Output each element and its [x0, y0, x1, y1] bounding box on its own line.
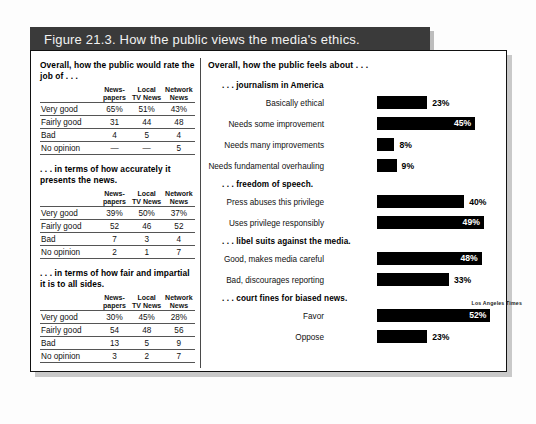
table-cell: 2	[98, 246, 130, 259]
table-cell: 4	[163, 233, 195, 246]
table-cell: 43%	[163, 103, 195, 116]
table-cell: 39%	[98, 207, 130, 220]
bar-row: Needs some improvement45%	[208, 117, 500, 133]
bar-track: 23%	[377, 96, 427, 109]
column-header	[40, 294, 98, 311]
table-row: Fairly good314448	[40, 116, 195, 129]
bar-row: Needs fundamental overhauling9%	[208, 159, 500, 175]
table-header-row: News- papersLocal TV NewsNetwork News	[40, 190, 195, 207]
table-cell: 7	[163, 350, 195, 363]
table-cell: 52	[163, 220, 195, 233]
table-cell: 56	[163, 324, 195, 337]
table-cell: 3	[98, 350, 130, 363]
bar-category-label: Needs many improvements	[224, 141, 324, 150]
table-cell: 4	[163, 129, 195, 142]
row-label: Bad	[40, 337, 98, 350]
column-header: News- papers	[98, 190, 130, 207]
table-cell: 2	[131, 350, 163, 363]
bar-track: 52%	[377, 309, 490, 322]
bar-group-heading: . . . court fines for biased news.	[222, 294, 500, 303]
table-heading: Overall, how the public would rate the j…	[40, 60, 195, 81]
row-label: Very good	[40, 103, 98, 116]
figure-title: Figure 21.3. How the public views the me…	[44, 32, 360, 47]
row-label: No opinion	[40, 142, 98, 155]
table-header-row: News- papersLocal TV NewsNetwork News	[40, 86, 195, 103]
table-cell: 7	[163, 246, 195, 259]
table-cell: —	[98, 142, 130, 155]
table-cell: 5	[131, 129, 163, 142]
bar-row: Favor52%	[208, 309, 500, 325]
row-label: Bad	[40, 129, 98, 142]
bar-track: 45%	[377, 117, 475, 130]
table-cell: 45%	[131, 311, 163, 324]
bar-category-label: Needs fundamental overhauling	[208, 162, 324, 171]
bar-fill	[377, 330, 427, 343]
row-label: No opinion	[40, 350, 98, 363]
bar-row: Oppose23%	[208, 330, 500, 346]
table-cell: 50%	[131, 207, 163, 220]
column-header: Local TV News	[131, 190, 163, 207]
table-cell: 48	[163, 116, 195, 129]
table-row: No opinion217	[40, 246, 195, 259]
bar-value-label: 9%	[402, 161, 414, 171]
table-row: Very good30%45%28%	[40, 311, 195, 324]
chart-groups: . . . journalism in AmericaBasically eth…	[208, 81, 500, 346]
table-cell: 9	[163, 337, 195, 350]
table-block: . . . in terms of how fair and impartial…	[40, 268, 195, 363]
bar-category-label: Favor	[303, 312, 324, 321]
bar-value-label: 52%	[469, 310, 486, 320]
column-header: News- papers	[98, 294, 130, 311]
bar-category-label: Oppose	[295, 333, 324, 342]
bar-value-label: 45%	[454, 118, 471, 128]
bar-category-label: Basically ethical	[266, 99, 324, 108]
table-cell: 7	[98, 233, 130, 246]
bar-category-label: Bad, discourages reporting	[226, 276, 324, 285]
table-cell: 3	[131, 233, 163, 246]
bar-fill: 52%	[377, 309, 490, 322]
row-label: Fairly good	[40, 324, 98, 337]
bar-track: 8%	[377, 138, 394, 151]
table-cell: 13	[98, 337, 130, 350]
bar-value-label: 49%	[463, 217, 480, 227]
ratings-table: News- papersLocal TV NewsNetwork NewsVer…	[40, 190, 195, 259]
bar-group-heading: . . . libel suits against the media.	[222, 237, 500, 246]
column-header: Network News	[163, 190, 195, 207]
bar-track: 9%	[377, 159, 397, 172]
chart-title: Overall, how the public feels about . . …	[208, 60, 500, 70]
column-header: News- papers	[98, 86, 130, 103]
bar-value-label: 23%	[432, 98, 449, 108]
bar-category-label: Needs some improvement	[228, 120, 324, 129]
row-label: Very good	[40, 207, 98, 220]
column-header: Local TV News	[131, 294, 163, 311]
source-credit: Los Angeles Times	[472, 300, 522, 306]
table-cell: 31	[98, 116, 130, 129]
bar-fill	[377, 273, 449, 286]
bar-fill	[377, 96, 427, 109]
table-block: Overall, how the public would rate the j…	[40, 60, 195, 155]
table-cell: 1	[131, 246, 163, 259]
panel-divider	[200, 58, 201, 368]
table-row: Bad454	[40, 129, 195, 142]
bar-group: . . . libel suits against the media.Good…	[208, 237, 500, 289]
table-cell: 48	[131, 324, 163, 337]
bar-row: Good, makes media careful48%	[208, 252, 500, 268]
column-header	[40, 190, 98, 207]
bar-category-label: Uses privilege responsibly	[229, 219, 324, 228]
ratings-table: News- papersLocal TV NewsNetwork NewsVer…	[40, 294, 195, 363]
table-cell: 54	[98, 324, 130, 337]
table-cell: 5	[163, 142, 195, 155]
chart-panel: Overall, how the public feels about . . …	[208, 60, 500, 351]
row-label: Bad	[40, 233, 98, 246]
bar-track: 40%	[377, 195, 464, 208]
table-heading: . . . in terms of how accurately it pres…	[40, 164, 195, 185]
bar-row: Bad, discourages reporting33%	[208, 273, 500, 289]
table-cell: 37%	[163, 207, 195, 220]
table-heading: . . . in terms of how fair and impartial…	[40, 268, 195, 289]
bar-fill	[377, 138, 394, 151]
table-row: Fairly good544856	[40, 324, 195, 337]
bar-fill	[377, 195, 464, 208]
table-cell: 28%	[163, 311, 195, 324]
bar-value-label: 40%	[469, 197, 486, 207]
row-label: No opinion	[40, 246, 98, 259]
tables-panel: Overall, how the public would rate the j…	[40, 60, 195, 372]
